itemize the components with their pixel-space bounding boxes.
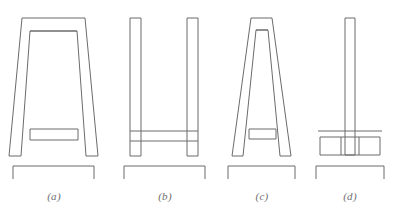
panel-d-pedestal-base: [320, 137, 380, 155]
panel-a-caption: (a): [34, 190, 74, 202]
panel-b-left-post: [130, 18, 141, 156]
panel-b-dimension-bracket: [124, 166, 205, 179]
panel-a-outer-frame: [9, 18, 98, 156]
panel-d-dimension-bracket: [316, 166, 384, 179]
panel-a-dimension-bracket: [13, 166, 94, 179]
panel-b-drawing: [124, 18, 205, 179]
figure-plate: (a) (b) (c) (d): [0, 0, 396, 219]
panel-a-drawing: [9, 18, 98, 179]
panel-a-stretcher-rail: [30, 129, 78, 140]
panel-b-caption: (b): [145, 190, 185, 202]
panel-c-stretcher-rail: [249, 129, 276, 139]
panel-c-outer-frame: [232, 18, 291, 156]
panel-c-dimension-bracket: [228, 166, 295, 179]
panel-d-caption: (d): [330, 190, 370, 202]
panel-d-center-post: [345, 18, 355, 155]
panel-c-drawing: [228, 18, 295, 179]
line-drawing-canvas: [0, 0, 396, 219]
panel-c-caption: (c): [242, 190, 282, 202]
panel-d-drawing: [316, 18, 384, 179]
panel-b-right-post: [187, 18, 198, 156]
